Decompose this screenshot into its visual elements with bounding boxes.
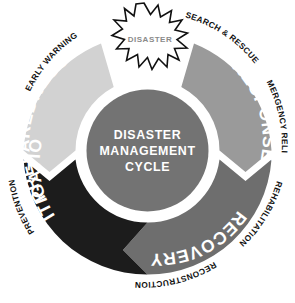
disaster-starburst: DISASTER	[112, 3, 188, 70]
hub-line-1: DISASTER	[114, 128, 181, 142]
starburst-label: DISASTER	[128, 35, 172, 44]
hub-line-3: CYCLE	[125, 160, 170, 174]
cycle-graphic: PREPAREDNESS RESPONSE RECOVERY MITIGATIO…	[0, 0, 295, 303]
disaster-management-cycle-diagram: PREPAREDNESS RESPONSE RECOVERY MITIGATIO…	[0, 0, 295, 303]
hub-line-2: MANAGEMENT	[99, 144, 195, 158]
